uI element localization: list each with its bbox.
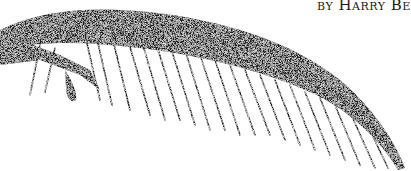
palm-frond-illustration [0,0,409,171]
